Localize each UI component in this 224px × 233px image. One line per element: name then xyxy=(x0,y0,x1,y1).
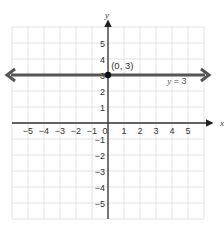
y-axis-label: y xyxy=(104,10,109,20)
x-tick-label: −5 xyxy=(23,126,33,136)
coordinate-plane: −5−4−3−2−1012345 54321−1−2−3−4−5 x y (0,… xyxy=(0,0,224,233)
y-tick-label: −1 xyxy=(95,135,105,145)
y-tick-label: −2 xyxy=(95,151,105,161)
y-tick-label: 1 xyxy=(100,103,105,113)
x-tick-label: −2 xyxy=(71,126,81,136)
y-tick-label: −5 xyxy=(95,199,105,209)
x-tick-label: 5 xyxy=(185,126,190,136)
x-tick-label: 4 xyxy=(169,126,174,136)
axes xyxy=(12,21,212,219)
x-tick-label: −4 xyxy=(39,126,49,136)
x-tick-label: 1 xyxy=(121,126,126,136)
data-point xyxy=(105,72,111,78)
x-tick-labels: −5−4−3−2−1012345 xyxy=(23,126,191,136)
point-label: (0, 3) xyxy=(111,60,133,71)
y-tick-label: −4 xyxy=(95,183,105,193)
line-label-rest: = 3 xyxy=(171,76,186,86)
y-tick-label: −3 xyxy=(95,167,105,177)
y-tick-label: 4 xyxy=(100,55,105,65)
x-tick-label: 3 xyxy=(153,126,158,136)
y-tick-label: 2 xyxy=(100,87,105,97)
x-tick-label: −3 xyxy=(55,126,65,136)
x-axis-label: x xyxy=(219,118,224,128)
y-tick-label: 5 xyxy=(100,39,105,49)
point-0-3 xyxy=(105,72,111,78)
line-equation-label: y = 3 xyxy=(166,76,186,86)
x-tick-label: 2 xyxy=(137,126,142,136)
